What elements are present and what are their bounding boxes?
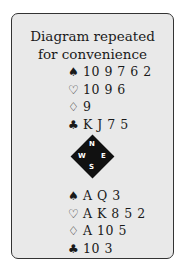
diamond-icon: ♢: [68, 223, 83, 241]
heart-icon: ♡: [68, 206, 83, 224]
title-line-1: Diagram repeated: [12, 27, 173, 45]
compass-south: S: [89, 164, 94, 171]
compass-west: W: [78, 153, 86, 160]
diagram-panel: Diagram repeated for convenience ♠10 9 7…: [11, 13, 174, 259]
title-line-2: for convenience: [12, 45, 173, 63]
south-spades: ♠A Q 3: [68, 187, 146, 205]
diamond-icon: ♢: [68, 99, 83, 117]
north-clubs: ♣K J 7 5: [68, 116, 152, 134]
south-diamonds: ♢A 10 5: [68, 222, 146, 240]
spade-icon: ♠: [68, 64, 83, 82]
heart-icon: ♡: [68, 82, 83, 100]
spade-icon: ♠: [68, 188, 83, 206]
club-icon: ♣: [68, 117, 83, 135]
north-diamonds: ♢9: [68, 98, 152, 116]
south-clubs: ♣10 3: [68, 240, 146, 258]
south-hearts: ♡A K 8 5 2: [68, 205, 146, 223]
north-hearts: ♡10 9 6: [68, 81, 152, 99]
north-hand: ♠10 9 7 6 2 ♡10 9 6 ♢9 ♣K J 7 5: [68, 63, 152, 133]
compass-north: N: [89, 141, 95, 148]
club-icon: ♣: [68, 241, 83, 259]
compass-east: E: [101, 153, 106, 160]
north-spades: ♠10 9 7 6 2: [68, 63, 152, 81]
south-hand: ♠A Q 3 ♡A K 8 5 2 ♢A 10 5 ♣10 3: [68, 187, 146, 257]
